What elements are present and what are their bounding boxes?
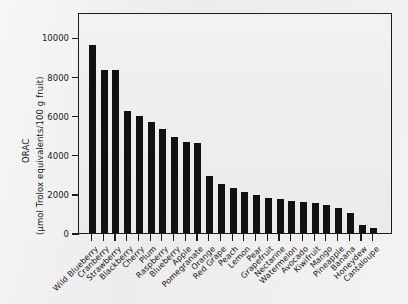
x-tick-mark: [302, 234, 303, 241]
y-tick-label-6000: 6000: [47, 112, 69, 122]
x-tick-mark: [278, 234, 279, 241]
x-tick-mark: [91, 234, 92, 241]
bar-kiwifruit: [312, 203, 319, 233]
figure-canvas: ORAC (µmol Trolox equivalents/100 g frui…: [0, 0, 408, 304]
bar-orange: [206, 176, 213, 233]
x-tick-mark: [243, 234, 244, 241]
x-tick-mark: [196, 234, 197, 241]
x-tick-mark: [267, 234, 268, 241]
x-tick-mark: [337, 234, 338, 241]
bar-peach: [230, 188, 237, 233]
bar-nectarine: [277, 199, 284, 233]
y-axis-title: ORAC (µmol Trolox equivalents/100 g frui…: [8, 13, 42, 234]
x-tick-mark: [173, 234, 174, 241]
y-tick-label-4000: 4000: [47, 151, 69, 161]
x-tick-mark: [360, 234, 361, 241]
bar-blackberry: [124, 111, 131, 233]
x-tick-mark: [220, 234, 221, 241]
bar-grapefruit: [265, 198, 272, 233]
bar-banana: [347, 213, 354, 233]
bar-strawberry: [112, 70, 119, 233]
bar-pineapple: [335, 208, 342, 233]
x-tick-mark: [232, 234, 233, 241]
x-tick-mark: [150, 234, 151, 241]
bar-avocado: [300, 202, 307, 233]
x-tick-mark: [208, 234, 209, 241]
y-tick-label-2000: 2000: [47, 190, 69, 200]
y-tick-label-0: 0: [64, 229, 69, 239]
bar-cranberry: [101, 70, 108, 233]
bar-mango: [323, 205, 330, 233]
x-tick-mark: [103, 234, 104, 241]
bar-plum: [148, 122, 155, 233]
bar-lemon: [241, 192, 248, 233]
x-tick-mark: [290, 234, 291, 241]
bar-cantaloupe: [370, 228, 377, 233]
x-tick-mark: [138, 234, 139, 241]
bar-series: [79, 14, 391, 233]
bar-watermelon: [288, 201, 295, 233]
bar-wild-blueberry: [89, 45, 96, 233]
x-tick-mark: [325, 234, 326, 241]
x-tick-mark: [126, 234, 127, 241]
x-tick-mark: [255, 234, 256, 241]
bar-apple: [183, 142, 190, 233]
bar-blueberry: [171, 137, 178, 233]
y-axis-title-line-1: ORAC: [21, 139, 31, 163]
x-tick-mark: [161, 234, 162, 241]
bar-pomegranate: [194, 143, 201, 233]
y-axis-title-line-2: (µmol Trolox equivalents/100 g fruit): [35, 76, 45, 235]
bar-raspberry: [159, 129, 166, 233]
x-tick-mark: [349, 234, 350, 241]
y-tick-label-8000: 8000: [47, 73, 69, 83]
bar-cherry: [136, 116, 143, 233]
x-tick-mark: [372, 234, 373, 241]
x-tick-mark: [314, 234, 315, 241]
bar-red-grape: [218, 184, 225, 233]
x-tick-mark: [185, 234, 186, 241]
plot-area: [78, 13, 392, 234]
bar-honeydew: [359, 225, 366, 233]
y-tick-label-10000: 10000: [42, 33, 69, 43]
x-tick-mark: [114, 234, 115, 241]
bar-pear: [253, 195, 260, 233]
